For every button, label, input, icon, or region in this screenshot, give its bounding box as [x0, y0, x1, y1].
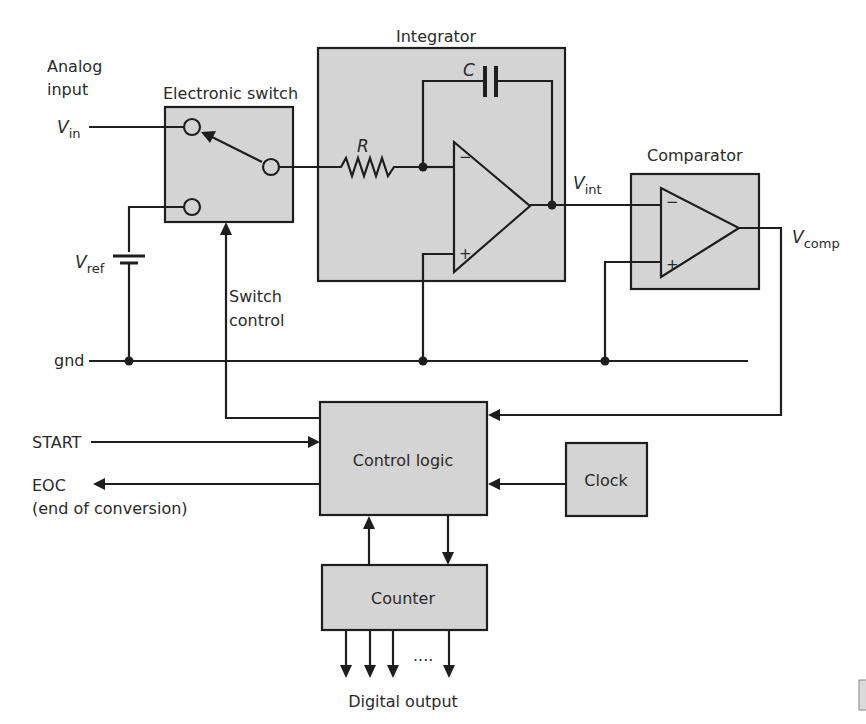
- resistor-label: R: [357, 136, 369, 156]
- eoc-label: EOC: [32, 476, 66, 495]
- analog-input-label-2: input: [47, 80, 88, 99]
- vref-label: Vref: [75, 252, 105, 276]
- vint-label: Vint: [573, 173, 602, 197]
- switch-terminal-vin: [184, 119, 200, 135]
- output-bits-ellipsis: ....: [413, 646, 433, 665]
- switch-control-label-2: control: [229, 311, 284, 330]
- svg-text:−: −: [666, 193, 679, 211]
- vcomp-label: Vcomp: [792, 227, 840, 251]
- start-label: START: [32, 433, 82, 452]
- counter-label: Counter: [371, 589, 435, 608]
- control-counter-lines: [363, 515, 454, 565]
- gnd-label: gnd: [54, 351, 84, 370]
- vin-label: Vin: [57, 117, 81, 141]
- svg-text:+: +: [459, 245, 472, 263]
- digital-output-arrows: [340, 630, 455, 678]
- clock-label: Clock: [584, 471, 628, 490]
- analog-input-label: Analog: [47, 57, 102, 76]
- comparator-title: Comparator: [647, 146, 743, 165]
- switch-terminal-output: [263, 159, 279, 175]
- capacitor-label: C: [463, 60, 475, 80]
- eoc-description: (end of conversion): [32, 499, 188, 518]
- page-edge-fragment: [859, 680, 866, 710]
- gnd-rail: [89, 357, 748, 366]
- svg-text:+: +: [666, 256, 679, 274]
- digital-output-label: Digital output: [348, 692, 458, 711]
- control-logic-label: Control logic: [353, 451, 454, 470]
- vref-battery: [113, 207, 184, 361]
- electronic-switch-title: Electronic switch: [163, 84, 298, 103]
- integrator-title: Integrator: [396, 27, 477, 46]
- switch-terminal-vref: [184, 199, 200, 215]
- start-eoc-lines: [91, 436, 320, 490]
- clock-line: [488, 478, 566, 490]
- adc-block-diagram: − + − +: [0, 0, 866, 724]
- svg-text:−: −: [459, 148, 472, 166]
- switch-control-label: Switch: [229, 287, 282, 306]
